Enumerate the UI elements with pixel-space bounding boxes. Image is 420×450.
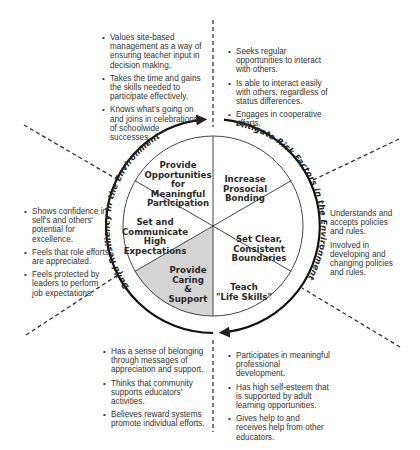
svg-text:Increase: Increase (224, 174, 265, 184)
callout-bottom-right: Participates in meaningful professional … (228, 351, 330, 446)
callout-bottom-left: Has a sense of belonging through message… (103, 347, 207, 433)
segment-caring: Provide Caring & Support (169, 265, 208, 304)
callout-top-left: Values site-based management as a way of… (102, 33, 202, 146)
svg-text:Opportunities: Opportunities (144, 170, 211, 180)
callout-left: Shows confidence in self's and others' p… (24, 207, 110, 302)
segment-boundaries: Set Clear, Consistent Boundaries (232, 234, 287, 263)
svg-text:Bonding: Bonding (225, 193, 265, 203)
svg-text:Set Clear,: Set Clear, (236, 234, 282, 244)
dashed-line-lower-right (302, 288, 400, 347)
svg-text:for: for (171, 179, 186, 189)
svg-text:Consistent: Consistent (233, 244, 285, 254)
svg-text:Support: Support (169, 294, 208, 304)
segment-opportunities: Provide Opportunities for Meaningful Par… (144, 160, 211, 208)
segment-bonding: Increase Prosocial Bonding (223, 174, 267, 203)
svg-text:Expectations: Expectations (124, 246, 187, 256)
callout-item: Values site-based management as a way of… (102, 33, 202, 70)
callout-item: Gives help to and receives help from oth… (228, 414, 330, 442)
callout-item: Knows what's going on and joins in celeb… (102, 105, 202, 142)
svg-text:&: & (184, 284, 192, 294)
callout-item: Seeks regular opportunities to interact … (228, 47, 332, 75)
svg-text:Provide: Provide (160, 160, 197, 170)
callout-item: Thinks that community supports educators… (103, 379, 207, 407)
callout-item: Feels protected by leaders to perform jo… (24, 270, 110, 298)
callout-item: Believes reward systems promote individu… (103, 410, 207, 428)
svg-text:Caring: Caring (172, 275, 204, 285)
callout-item: Takes the time and gains the skills need… (102, 74, 202, 102)
svg-text:"Life Skills": "Life Skills" (216, 292, 272, 302)
callout-right: Understands and accepts policies and rul… (322, 209, 402, 281)
svg-text:Provide: Provide (170, 265, 207, 275)
callout-item: Understands and accepts policies and rul… (322, 209, 402, 237)
svg-text:Set and: Set and (136, 217, 173, 227)
segment-expectations: Set and Communicate High Expectations (122, 217, 188, 256)
svg-text:Teach: Teach (230, 282, 258, 292)
svg-text:Prosocial: Prosocial (223, 184, 267, 194)
callout-top-right: Seeks regular opportunities to interact … (228, 47, 332, 133)
callout-item: Participates in meaningful professional … (228, 351, 330, 379)
svg-text:Communicate: Communicate (122, 227, 188, 237)
dashed-line-upper-right (309, 139, 399, 182)
svg-text:Participation: Participation (147, 198, 209, 208)
callout-item: Involved in developing and changing poli… (322, 241, 402, 278)
callout-item: Feels that role efforts are appreciated. (24, 248, 110, 266)
segment-life-skills: Teach "Life Skills" (216, 282, 272, 302)
svg-text:Boundaries: Boundaries (232, 253, 287, 263)
callout-item: Engages in cooperative efforts. (228, 110, 332, 128)
callout-item: Is able to interact easily with others, … (228, 79, 332, 107)
callout-item: Shows confidence in self's and others' p… (24, 207, 110, 244)
svg-text:Meaningful: Meaningful (151, 189, 205, 199)
callout-item: Has a sense of belonging through message… (103, 347, 207, 375)
svg-text:High: High (144, 236, 166, 246)
callout-item: Has high self-esteem that is supported b… (228, 383, 330, 411)
